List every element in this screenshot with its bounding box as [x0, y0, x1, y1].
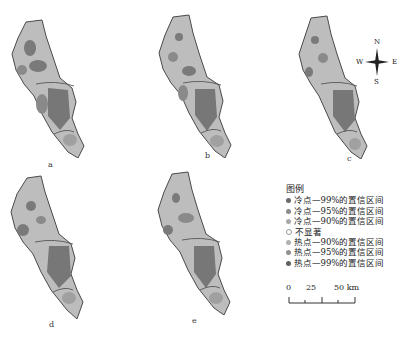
- legend-item-label: 热点—99%的置信区间: [294, 258, 384, 268]
- legend-swatch-icon: [286, 261, 291, 266]
- panel-label-b: b: [205, 151, 210, 160]
- legend-title: 图例: [286, 184, 384, 194]
- scale-tick-0: 0: [286, 283, 291, 292]
- legend-swatch-icon: [286, 229, 292, 235]
- legend-swatch-icon: [286, 219, 291, 224]
- legend-item: 不显著: [286, 227, 384, 237]
- legend-item-label: 热点—90%的置信区间: [294, 237, 384, 247]
- panel-label-a: a: [48, 160, 53, 169]
- legend-item: 冷点—99%的置信区间: [286, 195, 384, 205]
- north-arrow-compass: N S W E: [355, 38, 399, 88]
- compass-s: S: [374, 78, 379, 86]
- legend-item: 冷点—95%的置信区间: [286, 206, 384, 216]
- scale-bar: 0 25 50 km: [286, 283, 376, 305]
- scale-tick-50: 50 km: [334, 283, 359, 292]
- compass-n: N: [374, 38, 380, 46]
- panel-label-d: d: [49, 320, 54, 329]
- legend-item: 热点—90%的置信区间: [286, 237, 384, 247]
- region-map-d: [9, 174, 99, 319]
- map-panel-e: e: [152, 170, 242, 315]
- legend-swatch-icon: [286, 209, 291, 214]
- legend-item: 冷点—90%的置信区间: [286, 216, 384, 226]
- panel-label-c: c: [347, 154, 351, 163]
- compass-w: W: [356, 58, 363, 66]
- legend-swatch-icon: [286, 240, 291, 245]
- map-panel-a: a: [8, 18, 98, 158]
- region-map-b: [153, 13, 243, 158]
- scale-bar-line: [288, 295, 378, 305]
- legend-item-label: 冷点—99%的置信区间: [294, 195, 384, 205]
- compass-e: E: [392, 58, 397, 66]
- region-map-e: [152, 170, 242, 315]
- map-panel-d: d: [9, 174, 99, 319]
- legend-swatch-icon: [286, 250, 291, 255]
- legend-item-label: 冷点—90%的置信区间: [294, 216, 384, 226]
- legend-swatch-icon: [286, 198, 291, 203]
- legend-item-label: 热点—95%的置信区间: [294, 247, 384, 257]
- legend-item: 热点—99%的置信区间: [286, 258, 384, 268]
- region-map-a: [8, 18, 98, 158]
- legend-item-label: 冷点—95%的置信区间: [294, 206, 384, 216]
- panel-label-e: e: [192, 316, 197, 325]
- map-panel-b: b: [153, 13, 243, 158]
- legend-item: 热点—95%的置信区间: [286, 247, 384, 257]
- legend-item-label: 不显著: [295, 227, 322, 237]
- legend: 图例 冷点—99%的置信区间 冷点—95%的置信区间 冷点—90%的置信区间 不…: [286, 184, 384, 268]
- scale-tick-25: 25: [306, 283, 316, 292]
